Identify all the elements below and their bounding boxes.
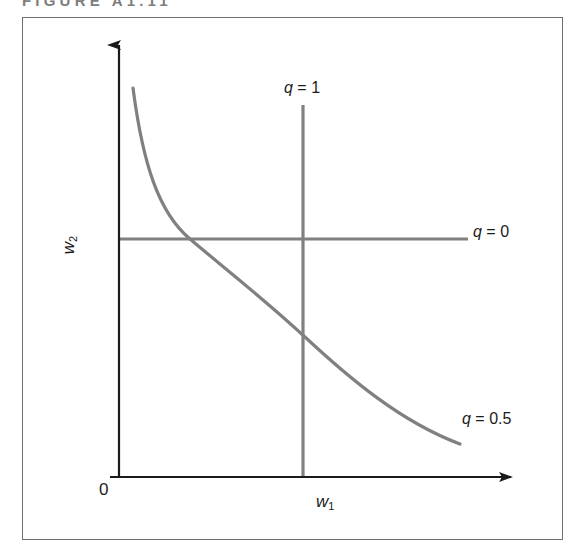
isoquant-curve-q05 — [133, 88, 460, 444]
origin-label: 0 — [99, 481, 108, 498]
annotation-q-equals-0-5: q = 0.5 — [462, 411, 511, 427]
annotation-q-equals-0: q = 0 — [473, 224, 509, 240]
x-axis-label: w1 — [316, 493, 334, 512]
annotation-q-equals-1: q = 1 — [284, 80, 320, 96]
y-axis-label: w2 — [60, 228, 94, 262]
figure-number-caption: FIGURE A1.11 — [22, 0, 172, 9]
figure-container: FIGURE A1.11 q = 1 q = 0 q = 0.5 w2 w1 0 — [0, 0, 585, 558]
